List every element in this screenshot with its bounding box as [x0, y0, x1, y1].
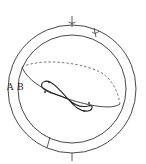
- ring-divider: [47, 137, 50, 148]
- ecliptic-front-solid: [22, 67, 120, 107]
- analemma-figure-eight: [42, 81, 93, 111]
- label-b: B: [17, 82, 24, 92]
- diagram-canvas: A B: [0, 0, 146, 164]
- inner-circle: [18, 35, 126, 143]
- outer-ring: [8, 25, 136, 153]
- analemma-points: [44, 81, 90, 112]
- label-a: A: [6, 82, 14, 92]
- ecliptic-back-dashed: [22, 62, 120, 104]
